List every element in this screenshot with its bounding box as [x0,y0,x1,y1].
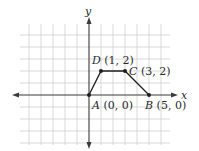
label-b-coords: (5, 0) [157,99,187,112]
y-axis-down-arrow-icon [87,142,92,149]
y-axis-label: y [84,5,92,18]
label-c-coords: (3, 2) [141,65,171,78]
label-b: B (5, 0) [144,99,186,112]
point-d [99,69,103,73]
label-a-name: A [91,99,100,112]
label-d: D (1, 2) [91,54,134,67]
x-axis-right-arrow-icon [171,93,178,98]
label-a-coords: (0, 0) [103,99,133,112]
grid [20,24,170,145]
label-d-name: D [91,54,101,67]
label-b-name: B [144,99,153,112]
x-axis-left-arrow-icon [12,93,19,98]
point-b [147,93,151,97]
y-axis-up-arrow-icon [87,17,92,24]
coordinate-plane-figure: x y D (1, 2) C (3, 2) A (0, 0) B (5, 0) [0,0,199,151]
label-c-name: C [129,65,138,78]
point-a [87,93,91,97]
point-c [123,69,127,73]
label-a: A (0, 0) [91,99,133,112]
label-c: C (3, 2) [129,65,171,78]
